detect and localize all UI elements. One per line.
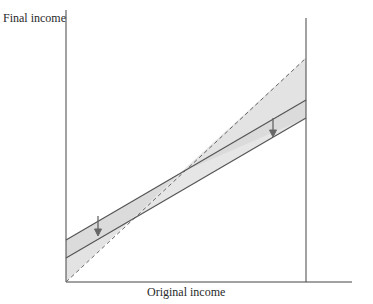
- upper-income-line: [66, 100, 306, 240]
- lower-income-line: [66, 118, 306, 258]
- tax-band: [66, 100, 306, 258]
- x-axis-label: Original income: [147, 285, 225, 300]
- y-axis-label: Final income: [3, 11, 66, 26]
- income-redistribution-diagram: [0, 0, 373, 304]
